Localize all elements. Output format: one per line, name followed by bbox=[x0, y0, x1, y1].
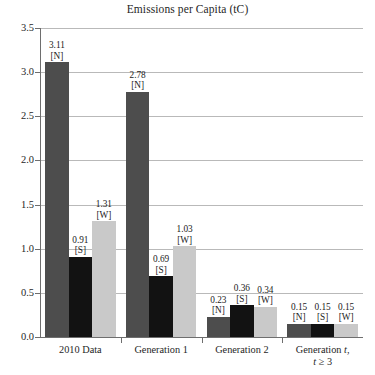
bar-value-label: 0.15[W] bbox=[329, 302, 363, 323]
bar-n-2 bbox=[126, 92, 150, 337]
bar-n-3 bbox=[207, 317, 231, 337]
x-axis-category-label: Generation 2 bbox=[202, 344, 283, 356]
bar-series-tag: [W] bbox=[168, 235, 202, 246]
bar-s-2 bbox=[149, 276, 173, 337]
bar-group: 0.15[N]0.15[S]0.15[W] bbox=[287, 28, 358, 337]
bar-series-tag: [N] bbox=[121, 80, 155, 91]
y-axis-tick-label: 2.0 bbox=[21, 155, 34, 165]
bar-s-3 bbox=[230, 305, 254, 337]
y-axis-tick bbox=[35, 293, 40, 294]
bar-w-2 bbox=[173, 246, 197, 337]
y-axis-tick bbox=[35, 28, 40, 29]
y-axis-tick bbox=[35, 160, 40, 161]
bar-value: 1.03 bbox=[168, 224, 202, 235]
y-axis-tick-label: 2.5 bbox=[21, 111, 34, 121]
bar-series-tag: [W] bbox=[87, 210, 121, 221]
bar-group: 2.78[N]0.69[S]1.03[W] bbox=[126, 28, 197, 337]
x-axis-category-label: Generation t,t ≥ 3 bbox=[282, 344, 363, 368]
y-axis-tick bbox=[35, 72, 40, 73]
bar-value-label: 2.78[N] bbox=[121, 70, 155, 91]
chart-figure: Emissions per Capita (tC) 3.11[N]0.91[S]… bbox=[0, 0, 375, 375]
bar-series-tag: [N] bbox=[40, 51, 74, 62]
bar-w-4 bbox=[334, 324, 358, 337]
chart-title: Emissions per Capita (tC) bbox=[0, 3, 375, 15]
bar-group: 0.23[N]0.36[S]0.34[W] bbox=[207, 28, 278, 337]
plot-area: 3.11[N]0.91[S]1.31[W]2.78[N]0.69[S]1.03[… bbox=[40, 28, 363, 337]
bar-s-4 bbox=[311, 324, 335, 337]
x-axis-category-label: 2010 Data bbox=[40, 344, 121, 356]
y-axis-tick-label: 3.0 bbox=[21, 67, 34, 77]
bar-value: 3.11 bbox=[40, 40, 74, 51]
bar-series-tag: [W] bbox=[329, 312, 363, 323]
y-axis-tick-label: 1.5 bbox=[21, 200, 34, 210]
bar-group: 3.11[N]0.91[S]1.31[W] bbox=[45, 28, 116, 337]
x-axis-tick bbox=[202, 338, 203, 343]
x-axis-tick bbox=[121, 338, 122, 343]
bar-s-1 bbox=[69, 257, 93, 337]
bar-value: 2.78 bbox=[121, 70, 155, 81]
bar-value: 0.34 bbox=[249, 285, 283, 296]
x-label-line1: Generation t, bbox=[296, 344, 350, 355]
y-axis-tick bbox=[35, 205, 40, 206]
x-axis-tick bbox=[282, 338, 283, 343]
y-axis-line bbox=[40, 28, 41, 338]
y-axis-tick bbox=[35, 116, 40, 117]
y-axis-tick-label: 0.5 bbox=[21, 288, 34, 298]
bar-value: 1.31 bbox=[87, 199, 121, 210]
y-axis-tick-label: 1.0 bbox=[21, 244, 34, 254]
bar-value-label: 1.31[W] bbox=[87, 199, 121, 220]
bar-value-label: 0.34[W] bbox=[249, 285, 283, 306]
bar-value: 0.15 bbox=[329, 302, 363, 313]
y-axis-tick-label: 3.5 bbox=[21, 23, 34, 33]
bar-n-1 bbox=[45, 62, 69, 337]
x-axis-category-label: Generation 1 bbox=[121, 344, 202, 356]
bar-value-label: 3.11[N] bbox=[40, 40, 74, 61]
bar-value-label: 1.03[W] bbox=[168, 224, 202, 245]
bar-w-3 bbox=[254, 307, 278, 337]
bar-n-4 bbox=[287, 324, 311, 337]
y-axis-tick-label: 0.0 bbox=[21, 332, 34, 342]
bar-series-tag: [W] bbox=[249, 295, 283, 306]
bar-w-1 bbox=[92, 221, 116, 337]
y-axis-tick bbox=[35, 249, 40, 250]
x-label-line2: t ≥ 3 bbox=[282, 356, 363, 368]
